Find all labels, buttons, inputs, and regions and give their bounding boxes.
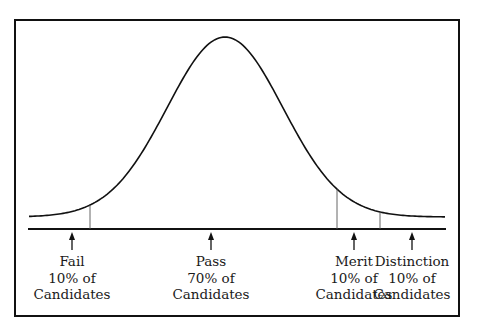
fail-title: Fail [17,253,127,270]
fail-unit: Candidates [17,286,127,303]
up-arrow-icon [208,232,214,250]
up-arrow-icon [69,232,75,250]
bell-curve [29,37,445,217]
fail-percent: 10% of [17,270,127,287]
distinction-unit: Candidates [357,286,467,303]
pass-title: Pass [156,253,266,270]
distinction-percent: 10% of [357,270,467,287]
distinction-label: Distinction 10% of Candidates [357,253,467,303]
up-arrow-icon [409,232,415,250]
up-arrow-icon [351,232,357,250]
grade-arrows [69,232,415,250]
pass-percent: 70% of [156,270,266,287]
pass-unit: Candidates [156,286,266,303]
distinction-title: Distinction [357,253,467,270]
grade-dividers [90,189,380,229]
fail-label: Fail 10% of Candidates [17,253,127,303]
pass-label: Pass 70% of Candidates [156,253,266,303]
